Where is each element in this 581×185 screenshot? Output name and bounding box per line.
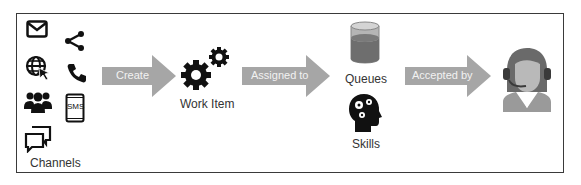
- chat-icon: [24, 125, 52, 153]
- work-item-label: Work Item: [180, 97, 234, 111]
- assigned-to-arrow: Assigned to: [242, 55, 330, 97]
- channels-label: Channels: [30, 156, 81, 170]
- accepted-by-arrow-label: Accepted by: [412, 69, 473, 81]
- sms-tablet-icon: SMS: [65, 93, 85, 123]
- assigned-to-arrow-label: Assigned to: [251, 69, 308, 81]
- head-gears-icon: [347, 93, 383, 133]
- email-icon: [26, 20, 48, 38]
- share-icon: [64, 30, 86, 52]
- queues-label: Queues: [345, 72, 387, 86]
- group-icon: [24, 91, 52, 113]
- web-icon: [25, 55, 51, 81]
- create-arrow: Create: [102, 55, 176, 97]
- gears-icon: [181, 47, 231, 91]
- database-cylinder-icon: [350, 21, 380, 65]
- skills-label: Skills: [352, 137, 380, 151]
- create-arrow-label: Create: [116, 69, 149, 81]
- sms-label: SMS: [67, 102, 84, 111]
- agent-headset-icon: [500, 46, 554, 112]
- phone-icon: [66, 62, 88, 84]
- accepted-by-arrow: Accepted by: [405, 55, 491, 97]
